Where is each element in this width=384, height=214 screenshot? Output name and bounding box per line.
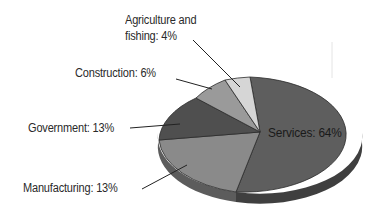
label-government: Government: 13% [28, 121, 114, 135]
label-agriculture-line2: fishing: 4% [125, 29, 177, 43]
label-agriculture-line1: Agriculture and [125, 13, 196, 27]
label-services: Services: 64% [268, 126, 342, 140]
leader-agriculture [193, 40, 240, 87]
label-construction: Construction: 6% [75, 66, 156, 80]
leader-construction [176, 79, 212, 89]
label-manufacturing: Manufacturing: 13% [23, 181, 118, 195]
